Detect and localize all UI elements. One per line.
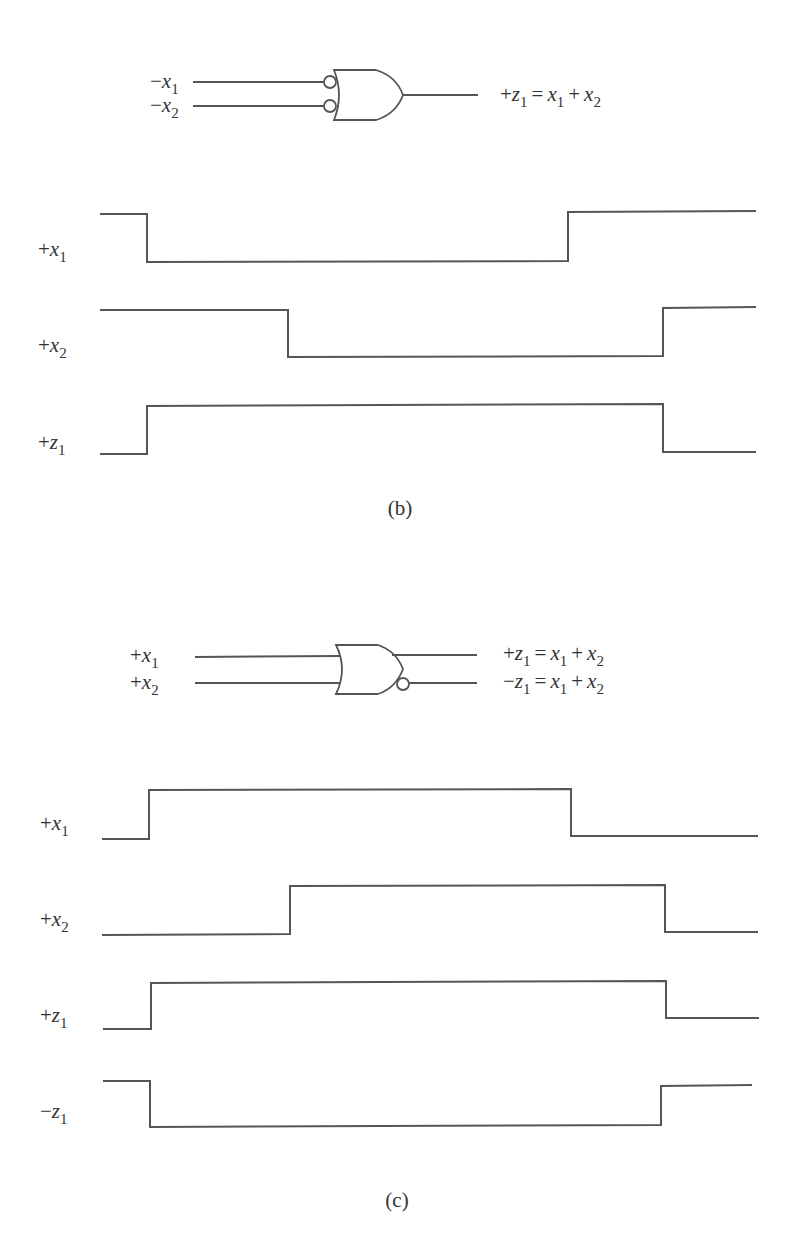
signal-label-c-z1: +z1 [40,1003,68,1031]
signal-label-b-x2: +x2 [38,333,67,361]
waveform-b-z1 [100,404,756,454]
inversion-bubble-icon [397,678,409,690]
inversion-bubble-icon [324,100,336,112]
signal-label-c-x2: +x2 [40,907,69,935]
signal-label-c-neg-z1: −z1 [40,1099,68,1127]
inversion-bubble-icon [324,76,336,88]
signal-label-b-x1: +x1 [38,237,67,265]
gate-c-output-equation-1: +z1=x1+x2 [503,641,604,669]
gate-c-input-label-1: +x1 [130,643,159,671]
panel-c: +x1 +x2 +z1=x1+x2 −z1=x1+x2 +x1 +x2 +z1 … [40,641,759,1212]
gate-c-input-wire-1 [195,656,341,657]
waveform-c-neg-z1 [103,1081,752,1127]
signal-label-c-x1: +x1 [40,811,69,839]
gate-b-output-equation: +z1=x1+x2 [500,82,601,110]
or-gate-icon [334,70,403,120]
gate-c-input-label-2: +x2 [130,670,159,698]
panel-c-caption: (c) [385,1188,408,1212]
timing-diagram-figure: −x1 −x2 +z1=x1+x2 +x1 +x2 +z1 (b) +x1 +x… [0,0,791,1254]
gate-c-output-equation-2: −z1=x1+x2 [503,669,604,697]
waveform-c-x2 [102,885,758,935]
panel-b: −x1 −x2 +z1=x1+x2 +x1 +x2 +z1 (b) [38,69,756,520]
panel-b-caption: (b) [388,496,413,520]
waveform-c-x1 [102,789,758,839]
or-nor-gate-icon [336,645,403,694]
waveform-c-z1 [103,981,759,1029]
signal-label-b-z1: +z1 [38,430,66,458]
waveform-b-x2 [100,307,756,357]
gate-b-input-label-2: −x2 [150,93,179,121]
waveform-b-x1 [100,211,756,262]
